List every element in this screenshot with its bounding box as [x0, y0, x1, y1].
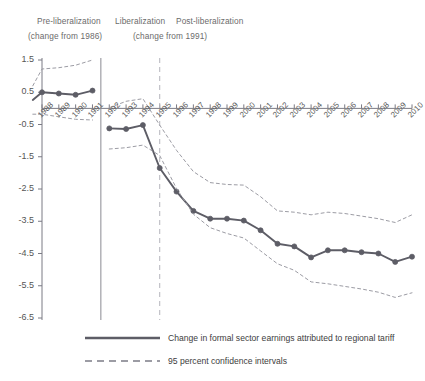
y-axis-tick-label: -1.5 [4, 151, 34, 161]
legend-label-series: Change in formal sector earnings attribu… [168, 333, 394, 343]
y-axis-tick-label: -6.5 [4, 312, 34, 322]
y-axis-tick-label: 1.5 [4, 54, 34, 64]
y-axis-tick-label: -2.5 [4, 183, 34, 193]
y-axis-tick-label: 0.5 [4, 86, 34, 96]
y-axis-tick-label: -3.5 [4, 215, 34, 225]
y-axis-tick-label: -0.5 [4, 119, 34, 129]
y-axis-tick-label: -4.5 [4, 248, 34, 258]
y-axis-tick-label: -5.5 [4, 280, 34, 290]
legend-label-ci: 95 percent confidence intervals [168, 356, 287, 366]
